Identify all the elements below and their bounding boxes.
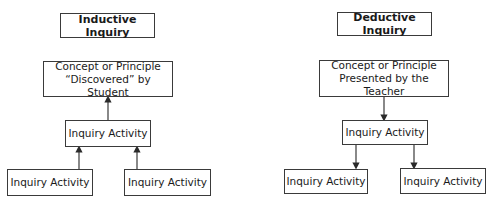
deductive-title: Deductive Inquiry xyxy=(338,11,431,37)
concept-line-2: Presented by the Teacher xyxy=(320,72,448,98)
inductive-title-box: Inductive Inquiry xyxy=(60,13,155,38)
concept-line-2: “Discovered” by Student xyxy=(44,73,172,99)
activity-label: Inquiry Activity xyxy=(286,175,365,188)
activity-label: Inquiry Activity xyxy=(345,126,424,139)
inductive-concept-box: Concept or Principle “Discovered” by Stu… xyxy=(43,61,173,97)
deductive-bottom-left-activity: Inquiry Activity xyxy=(284,169,368,194)
concept-line-1: Concept or Principle xyxy=(55,60,161,73)
inductive-bottom-right-activity: Inquiry Activity xyxy=(124,169,211,196)
deductive-bottom-right-activity: Inquiry Activity xyxy=(400,168,486,194)
activity-label: Inquiry Activity xyxy=(128,176,207,189)
activity-label: Inquiry Activity xyxy=(403,175,482,188)
deductive-middle-activity: Inquiry Activity xyxy=(342,120,428,145)
activity-label: Inquiry Activity xyxy=(68,127,147,140)
deductive-title-box: Deductive Inquiry xyxy=(337,12,432,36)
deductive-concept-box: Concept or Principle Presented by the Te… xyxy=(319,60,449,97)
inductive-bottom-left-activity: Inquiry Activity xyxy=(7,169,93,196)
inductive-middle-activity: Inquiry Activity xyxy=(65,120,151,147)
inductive-title: Inductive Inquiry xyxy=(61,13,154,39)
activity-label: Inquiry Activity xyxy=(10,176,89,189)
concept-line-1: Concept or Principle xyxy=(331,59,437,72)
